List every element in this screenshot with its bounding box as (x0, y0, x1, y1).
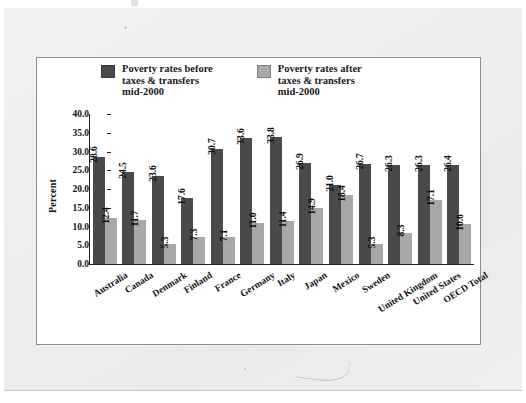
bar-before[interactable]: 30.7 (211, 149, 223, 264)
bar-value-label: 26.3 (385, 155, 395, 172)
bar-group[interactable]: 21.018.4 (326, 114, 356, 264)
bar-value-label: 30.7 (207, 139, 217, 156)
bar-value-label: 12.4 (101, 207, 111, 224)
bar-value-label: 26.7 (355, 154, 365, 171)
bar-group[interactable]: 23.65.3 (149, 114, 179, 264)
bar-group[interactable]: 26.38.3 (385, 114, 415, 264)
y-axis-tick-label: 40.0 (72, 109, 89, 119)
bar-value-label: 11.4 (278, 211, 288, 227)
bar-group[interactable]: 28.612.4 (90, 114, 120, 264)
bar-value-label: 28.6 (89, 146, 99, 163)
x-axis-tick-label: Italy (275, 270, 296, 289)
x-axis-label-cell: Finland (179, 267, 209, 337)
bar-after[interactable]: 11.4 (282, 221, 294, 264)
bar-value-label: 5.3 (367, 236, 377, 248)
bar-value-label: 14.9 (308, 198, 318, 215)
bar-group[interactable]: 26.75.3 (356, 114, 386, 264)
x-axis-label-cell: Australia (90, 267, 120, 337)
bar-after[interactable]: 12.4 (105, 218, 117, 265)
y-axis-tick-label: 0.0 (77, 259, 89, 269)
bar-after[interactable]: 5.3 (164, 244, 176, 264)
bar-value-label: 26.9 (296, 153, 306, 170)
x-axis-label-cell: OECD Total (444, 267, 474, 337)
bar-after[interactable]: 10.6 (459, 224, 471, 264)
y-axis-tick-label: 20.0 (72, 184, 89, 194)
bar-value-label: 21.0 (326, 175, 336, 192)
bar-before[interactable]: 23.6 (152, 176, 164, 265)
bar-group[interactable]: 26.410.6 (444, 114, 474, 264)
scanned-page: ⌄ Poverty rates before taxes & transfers… (0, 0, 526, 403)
bar-value-label: 17.1 (426, 190, 436, 207)
scan-speck (244, 368, 246, 370)
chart-figure: Poverty rates before taxes & transfers m… (36, 57, 481, 345)
bar-value-label: 17.6 (178, 188, 188, 205)
bar-group[interactable]: 26.317.1 (415, 114, 445, 264)
x-axis-label-cell: United Kingdom (385, 267, 415, 337)
y-axis-tick-label: 5.0 (77, 240, 89, 250)
bar-after[interactable]: 5.3 (371, 244, 383, 264)
scan-speck (124, 26, 127, 29)
x-axis-label-cell: Italy (267, 267, 297, 337)
x-axis-label-cell: Germany (238, 267, 268, 337)
bar-after[interactable]: 11.7 (134, 220, 146, 264)
x-axis-labels: AustraliaCanadaDenmarkFinlandFranceGerma… (90, 267, 474, 337)
bar-before[interactable]: 26.3 (418, 165, 430, 264)
bar-after[interactable]: 7.3 (193, 237, 205, 264)
bar-value-label: 8.3 (397, 225, 407, 237)
x-axis-label-cell: France (208, 267, 238, 337)
bar-value-label: 7.3 (190, 229, 200, 241)
bar-value-label: 26.3 (414, 155, 424, 172)
y-axis-tick-label: 35.0 (72, 128, 89, 138)
bar-value-label: 7.1 (219, 229, 229, 241)
bar-value-label: 11.7 (131, 210, 141, 226)
y-axis-ticks: 40.035.030.025.020.015.010.05.00.0 (55, 114, 89, 264)
x-axis-line (89, 264, 474, 265)
scan-artifact-top (131, 0, 138, 6)
x-axis-label-cell: United States (415, 267, 445, 337)
bar-after[interactable]: 7.1 (223, 237, 235, 264)
bar-group[interactable]: 33.811.4 (267, 114, 297, 264)
x-axis-label-cell: Japan (297, 267, 327, 337)
x-axis-label-cell: Canada (120, 267, 150, 337)
x-axis-label-cell: Mexico (326, 267, 356, 337)
bar-group[interactable]: 33.611.0 (238, 114, 268, 264)
bar-value-label: 10.6 (456, 214, 466, 231)
y-axis-tick-label: 15.0 (72, 203, 89, 213)
bar-groups: 28.612.424.511.723.65.317.67.330.77.133.… (90, 114, 474, 264)
bar-group[interactable]: 24.511.7 (120, 114, 150, 264)
bar-after[interactable]: 8.3 (400, 233, 412, 264)
bar-value-label: 11.0 (249, 213, 259, 229)
y-axis-tick-label: 25.0 (72, 165, 89, 175)
bar-before[interactable]: 26.3 (388, 165, 400, 264)
bar-group[interactable]: 30.77.1 (208, 114, 238, 264)
bar-value-label: 33.6 (237, 128, 247, 145)
bar-after[interactable]: 17.1 (430, 200, 442, 264)
bar-before[interactable]: 33.6 (240, 138, 252, 264)
bar-after[interactable]: 14.9 (311, 208, 323, 264)
bar-value-label: 5.3 (160, 236, 170, 248)
bar-group[interactable]: 17.67.3 (179, 114, 209, 264)
bar-after[interactable]: 18.4 (341, 195, 353, 264)
x-axis-tick-label: Japan (303, 270, 329, 292)
bar-value-label: 18.4 (338, 185, 348, 202)
bar-before[interactable]: 26.7 (359, 164, 371, 264)
bar-value-label: 24.5 (119, 162, 129, 179)
plot-area: Percent 40.035.030.025.020.015.010.05.00… (37, 58, 480, 344)
y-axis-tick-label: 30.0 (72, 147, 89, 157)
bar-after[interactable]: 11.0 (252, 223, 264, 264)
bar-value-label: 33.8 (266, 127, 276, 144)
x-axis-label-cell: Denmark (149, 267, 179, 337)
bar-value-label: 23.6 (148, 165, 158, 182)
bar-group[interactable]: 26.914.9 (297, 114, 327, 264)
bar-before[interactable]: 33.8 (270, 137, 282, 264)
y-axis-tick-label: 10.0 (72, 222, 89, 232)
bar-value-label: 26.4 (444, 155, 454, 172)
